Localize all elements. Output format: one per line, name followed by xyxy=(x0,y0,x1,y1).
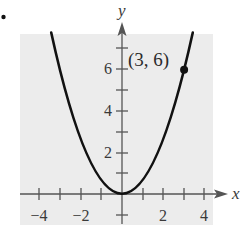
x-axis-label: x xyxy=(231,184,240,203)
parabola-chart: y x (3, 6) −4 −2 2 4 2 4 6 xyxy=(0,0,250,240)
y-tick-label: 6 xyxy=(104,60,112,77)
x-tick-label: −4 xyxy=(30,207,47,224)
y-axis-label: y xyxy=(116,1,126,20)
point-marker xyxy=(180,66,188,74)
y-tick-label: 2 xyxy=(104,144,112,161)
x-tick-label: 4 xyxy=(200,207,208,224)
y-tick-label: 4 xyxy=(104,102,112,119)
bullet-marker xyxy=(1,15,5,19)
x-tick-label: −2 xyxy=(72,207,89,224)
x-tick-label: 2 xyxy=(159,207,167,224)
point-label: (3, 6) xyxy=(128,49,169,71)
